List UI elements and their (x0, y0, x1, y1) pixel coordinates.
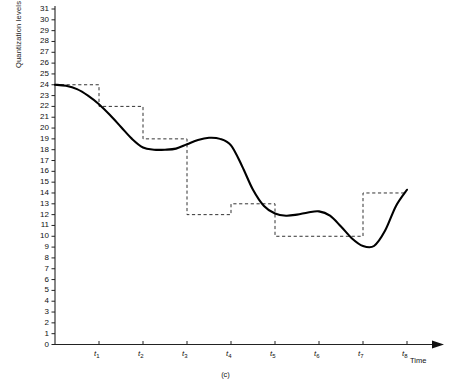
x-tick-label-t4: t4 (226, 349, 232, 358)
y-tick-label: 16 (27, 167, 49, 175)
y-tick-label: 8 (27, 254, 49, 262)
quantized-staircase-line (55, 85, 407, 237)
y-tick-label: 5 (27, 286, 49, 294)
y-tick-label: 27 (27, 48, 49, 56)
quantization-figure: Quantization levels 01234567891011121314… (0, 0, 451, 392)
x-tick-label-t3: t3 (182, 349, 188, 358)
y-tick-label: 19 (27, 135, 49, 143)
y-tick-label: 13 (27, 200, 49, 208)
y-tick-label: 12 (27, 211, 49, 219)
y-tick-label: 11 (27, 221, 49, 229)
y-tick-label: 29 (27, 27, 49, 35)
x-axis-arrow-icon (432, 341, 444, 349)
y-tick-label: 22 (27, 102, 49, 110)
x-tick-label-t8: t8 (402, 349, 408, 358)
y-tick-label: 31 (27, 5, 49, 13)
x-tick-label-t6: t6 (314, 349, 320, 358)
y-tick-label: 9 (27, 243, 49, 251)
figure-caption: (c) (0, 370, 451, 379)
y-tick-label: 10 (27, 232, 49, 240)
y-tick-label: 23 (27, 92, 49, 100)
x-axis-title: Time (410, 356, 426, 365)
y-tick-label: 24 (27, 81, 49, 89)
y-tick-label: 3 (27, 308, 49, 316)
plot-canvas (0, 0, 451, 392)
y-tick-label: 2 (27, 319, 49, 327)
x-tick-label-t1: t1 (94, 349, 100, 358)
y-tick-label: 17 (27, 157, 49, 165)
y-tick-label: 18 (27, 146, 49, 154)
y-tick-label: 20 (27, 124, 49, 132)
y-tick-label: 25 (27, 70, 49, 78)
y-tick-label: 6 (27, 276, 49, 284)
y-tick-label: 28 (27, 37, 49, 45)
y-tick-label: 21 (27, 113, 49, 121)
x-tick-label-t2: t2 (138, 349, 144, 358)
y-tick-label: 30 (27, 16, 49, 24)
y-tick-label: 7 (27, 265, 49, 273)
x-tick-label-t7: t7 (358, 349, 364, 358)
y-tick-label: 1 (27, 330, 49, 338)
x-tick-label-t5: t5 (270, 349, 276, 358)
y-tick-label: 0 (27, 341, 49, 349)
y-tick-label: 26 (27, 59, 49, 67)
y-tick-label: 4 (27, 297, 49, 305)
y-tick-label: 14 (27, 189, 49, 197)
y-tick-label: 15 (27, 178, 49, 186)
analog-signal-curve (55, 85, 407, 248)
